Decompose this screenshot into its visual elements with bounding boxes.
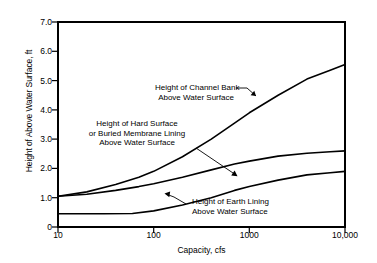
x-axis-title: Capacity, cfs (58, 245, 345, 255)
y-tick-label-1: 1.0 (18, 193, 52, 203)
annotation-earth-lining-line2: Above Water Surface (192, 207, 322, 217)
y-tick-label-6: 6.0 (18, 46, 52, 56)
annotation-channel-bank: Height of Channel Bank Above Water Surfa… (155, 83, 237, 102)
annotation-earth-lining-line1: Height of Earth Lining (192, 197, 322, 207)
annotation-channel-bank-line2: Above Water Surface (155, 93, 237, 103)
annotation-hard-surface: Height of Hard Surface or Buried Membran… (75, 119, 199, 148)
annotation-hard-surface-line2: or Buried Membrane Lining (75, 129, 199, 139)
annotation-hard-surface-line1: Height of Hard Surface (75, 119, 199, 129)
x-tick-label-1000: 1000 (219, 230, 279, 240)
y-tick-label-7: 7.0 (18, 17, 52, 27)
x-tick-label-100: 100 (124, 230, 184, 240)
annotation-channel-bank-line1: Height of Channel Bank (155, 83, 237, 93)
chart-figure: Height of Above Water Surface, ft Capaci… (0, 0, 377, 263)
y-tick-label-5: 5.0 (18, 76, 52, 86)
x-tick-label-10: 10 (28, 230, 88, 240)
y-tick-label-3: 3.0 (18, 134, 52, 144)
y-tick-label-2: 2.0 (18, 163, 52, 173)
annotation-earth-lining: Height of Earth Lining Above Water Surfa… (192, 197, 322, 216)
annotation-hard-surface-line3: Above Water Surface (75, 138, 199, 148)
y-tick-label-4: 4.0 (18, 105, 52, 115)
x-tick-label-10000: 10,000 (315, 230, 375, 240)
